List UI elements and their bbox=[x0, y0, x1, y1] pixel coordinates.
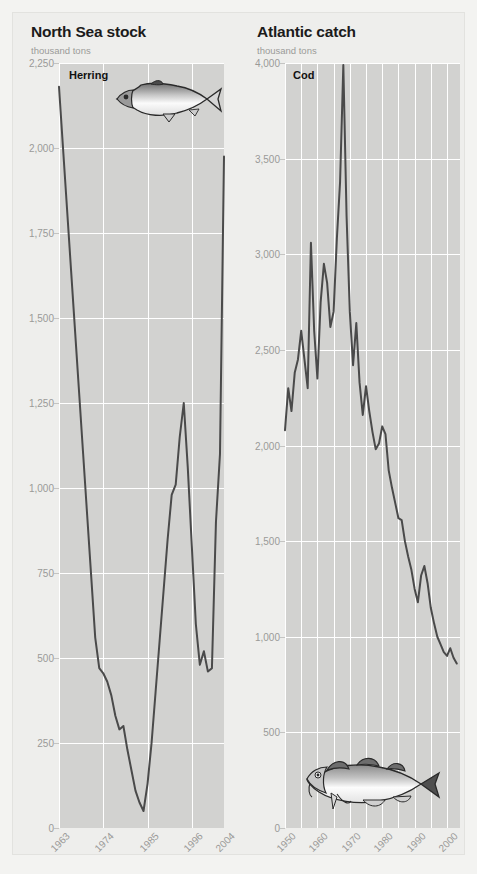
y-axis-tick-label: 1,250 bbox=[29, 398, 54, 409]
y-axis-tick-label: 1,500 bbox=[255, 536, 280, 547]
y-axis-tick-label: 3,500 bbox=[255, 153, 280, 164]
panel-north-sea-stock: North Sea stock thousand tons Herring bbox=[13, 13, 239, 856]
y-axis-tick-label: 1,500 bbox=[29, 313, 54, 324]
y-axis-tick-label: 250 bbox=[37, 738, 54, 749]
y-axis-tick-label: 750 bbox=[37, 568, 54, 579]
y-axis-tick-label: 1,000 bbox=[29, 483, 54, 494]
y-axis-unit-left: thousand tons bbox=[31, 45, 91, 56]
charts-frame: North Sea stock thousand tons Herring bbox=[12, 12, 465, 855]
series-label-cod: Cod bbox=[293, 69, 314, 81]
page-title-right: Atlantic catch bbox=[257, 23, 356, 41]
y-axis-tick-label: 3,000 bbox=[255, 249, 280, 260]
y-axis-tick-label: 1,750 bbox=[29, 228, 54, 239]
x-axis-tick-label: 1970 bbox=[339, 830, 363, 854]
herring-fish-icon bbox=[101, 75, 225, 127]
y-axis-unit-right: thousand tons bbox=[257, 45, 317, 56]
y-axis-tick-label: 500 bbox=[263, 727, 280, 738]
y-axis-tick-label: 2,250 bbox=[29, 58, 54, 69]
x-axis-tick-label: 2004 bbox=[213, 830, 237, 854]
y-axis-tick-label: 500 bbox=[37, 653, 54, 664]
plot-area-herring: Herring bbox=[59, 63, 224, 828]
cod-fish-icon bbox=[293, 753, 443, 815]
y-axis-tick-label: 1,000 bbox=[255, 631, 280, 642]
x-axis-tick-label: 1990 bbox=[404, 830, 428, 854]
cod-catch-line bbox=[285, 63, 460, 828]
plot-area-cod: Cod bbox=[285, 63, 460, 828]
panel-atlantic-catch: Atlantic catch thousand tons Cod bbox=[239, 13, 466, 856]
y-axis-tick-label: 2,000 bbox=[29, 143, 54, 154]
x-axis-tick-label: 1950 bbox=[274, 830, 298, 854]
y-axis-tick-mark bbox=[280, 828, 285, 829]
page-title-left: North Sea stock bbox=[31, 23, 146, 41]
y-axis-tick-label: 4,000 bbox=[255, 58, 280, 69]
x-axis-tick-label: 1963 bbox=[48, 830, 72, 854]
y-axis-tick-label: 2,500 bbox=[255, 344, 280, 355]
x-axis-tick-label: 1996 bbox=[181, 830, 205, 854]
x-axis-tick-label: 1974 bbox=[93, 830, 117, 854]
series-label-herring: Herring bbox=[69, 69, 108, 81]
chart-page: North Sea stock thousand tons Herring bbox=[0, 0, 477, 874]
y-axis-tick-mark bbox=[54, 828, 59, 829]
herring-stock-line bbox=[59, 63, 224, 828]
x-axis-tick-label: 1985 bbox=[137, 830, 161, 854]
x-axis-tick-label: 2000 bbox=[436, 830, 460, 854]
y-axis-tick-label: 2,000 bbox=[255, 440, 280, 451]
x-axis-tick-label: 1960 bbox=[307, 830, 331, 854]
x-axis-tick-label: 1980 bbox=[372, 830, 396, 854]
